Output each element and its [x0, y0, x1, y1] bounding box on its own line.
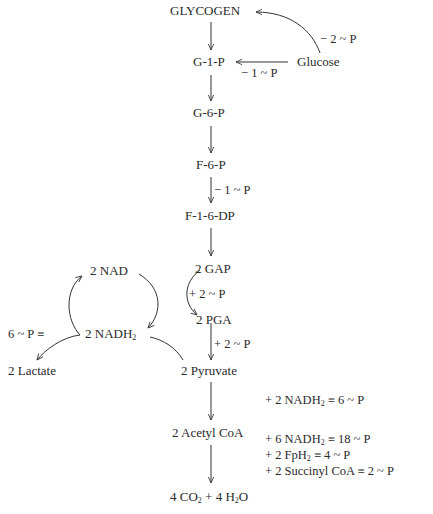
node-co2-h2o: 4 CO2 + 4 H2O [170, 490, 248, 504]
arrow-glucose-glycogen [256, 12, 320, 53]
node-pga: 2 PGA [196, 313, 232, 327]
node-g6p: G-6-P [193, 106, 225, 120]
yield-acetyl-fph2: + 2 FpH2 ≡ 4 ~ P [265, 448, 350, 462]
arrow-nadh-nad [69, 276, 82, 335]
node-nad: 2 NAD [90, 264, 128, 278]
label-f6p-f16dp: − 1 ~ P [214, 183, 250, 197]
node-glycogen: GLYCOGEN [170, 4, 240, 18]
label-glucose-glycogen: − 2 ~ P [320, 32, 356, 46]
arrow-nad-nadh [139, 274, 158, 328]
label-gap-pga: + 2 ~ P [189, 287, 225, 301]
yield-acetyl-succinyl: + 2 Succinyl CoA ≡ 2 ~ P [265, 464, 394, 478]
arrow-pyruvate-nadh [150, 337, 183, 360]
node-nadh2: 2 NADH2 [85, 327, 136, 341]
node-glucose: Glucose [297, 55, 340, 69]
node-pyruvate: 2 Pyruvate [181, 364, 237, 378]
node-g1p: G-1-P [193, 55, 225, 69]
node-acetyl-coa: 2 Acetyl CoA [172, 426, 244, 440]
node-f6p: F-6-P [196, 158, 226, 172]
node-lactate: 2 Lactate [8, 364, 56, 378]
label-pga-pyruvate: + 2 ~ P [214, 337, 250, 351]
label-glucose-g1p: − 1 ~ P [241, 66, 277, 80]
yield-acetyl-nadh: + 6 NADH2 ≡ 18 ~ P [265, 432, 370, 446]
node-f16dp: F-1-6-DP [185, 209, 235, 223]
label-nadh-equiv: 6 ~ P ≡ [8, 327, 44, 341]
node-gap: 2 GAP [195, 262, 231, 276]
yield-pyruvate-acetyl: + 2 NADH2 ≡ 6 ~ P [265, 393, 364, 407]
